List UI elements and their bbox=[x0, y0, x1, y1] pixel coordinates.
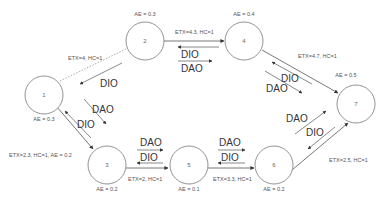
node-6: 6 AE = 0.2 bbox=[255, 146, 293, 192]
node-5-ae: AE = 0.1 bbox=[178, 186, 199, 192]
node-5: 5 AE = 0.1 bbox=[170, 146, 208, 192]
dao-label-4-7: DAO bbox=[266, 83, 288, 94]
rpl-topology-diagram: DIO DIO DAO DIO DAO DAO DIO DAO DIO DAO … bbox=[0, 0, 387, 205]
link-1-2 bbox=[60, 48, 128, 81]
link-label-6-7: ETX=2.5, HC=1 bbox=[329, 157, 368, 163]
dio-label-3-1: DIO bbox=[77, 119, 95, 130]
node-7: 7 AE = 0.5 bbox=[335, 72, 375, 123]
dao-label-6-7: DAO bbox=[286, 113, 308, 124]
link-label-2-4: ETX=4.3, HC=1 bbox=[175, 29, 214, 35]
link-label-3-5: ETX=2, HC=1 bbox=[128, 176, 162, 182]
node-4-ae: AE = 0.4 bbox=[233, 11, 254, 17]
dio-label-6-5: DIO bbox=[221, 152, 239, 163]
node-2: 2 AE = 0.3 bbox=[126, 11, 164, 60]
link-label-1-2: ETX=4, HC=1 bbox=[68, 55, 102, 61]
node-6-ae: AE = 0.2 bbox=[263, 186, 284, 192]
dao-label-3-5: DAO bbox=[140, 137, 162, 148]
node-3: 3 AE = 0.2 bbox=[88, 146, 126, 192]
dao-label-1-3: DAO bbox=[92, 104, 114, 115]
node-7-ae: AE = 0.5 bbox=[335, 72, 356, 78]
dio-label-7-6: DIO bbox=[306, 127, 324, 138]
node-2-ae: AE = 0.3 bbox=[134, 11, 155, 17]
link-label-5-6: ETX=3.3, HC=1 bbox=[213, 176, 252, 182]
dio-label-4-2: DIO bbox=[181, 49, 199, 60]
node-4: 4 AE = 0.4 bbox=[225, 11, 263, 60]
node-3-ae: AE = 0.2 bbox=[96, 186, 117, 192]
link-label-4-7: ETX=4.7, HC=1 bbox=[298, 53, 337, 59]
node-1: 1 AE = 0.3 bbox=[25, 76, 63, 122]
node-1-ae: AE = 0.3 bbox=[33, 116, 54, 122]
dio-label-2-1: DIO bbox=[100, 78, 118, 89]
dio-label-5-3: DIO bbox=[140, 152, 158, 163]
dao-label-5-6: DAO bbox=[219, 137, 241, 148]
link-label-1-3: ETX=2.3, HC=1, AE = 0.2 bbox=[9, 152, 72, 158]
dao-label-2-4: DAO bbox=[181, 63, 203, 74]
